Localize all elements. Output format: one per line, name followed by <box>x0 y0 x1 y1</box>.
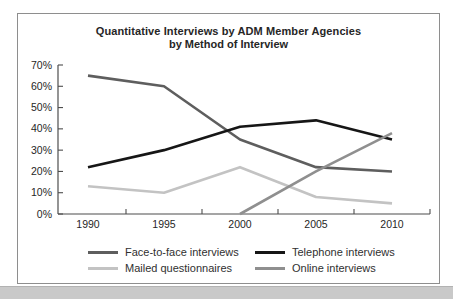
legend-label: Online interviews <box>292 262 376 274</box>
legend-item: Telephone interviews <box>255 246 395 258</box>
y-tick-label: 0% <box>37 208 52 220</box>
online-line-swatch <box>255 267 285 270</box>
chart-frame: Quantitative Interviews by ADM Member Ag… <box>17 13 440 284</box>
face-to-face-line-swatch <box>88 251 118 254</box>
legend-item: Online interviews <box>255 262 395 274</box>
y-tick-label: 70% <box>31 59 52 71</box>
legend-label: Mailed questionnaires <box>125 262 232 274</box>
series-line-mailed-questionnaires <box>88 167 392 203</box>
x-tick-label: 2005 <box>304 218 328 230</box>
series-line-telephone-interviews <box>88 120 392 167</box>
telephone-line-swatch <box>255 251 285 254</box>
legend-item: Face-to-face interviews <box>88 246 255 258</box>
y-tick-label: 60% <box>31 80 52 92</box>
y-tick-label: 10% <box>31 186 52 198</box>
y-tick-label: 50% <box>31 101 52 113</box>
plot-area: 0%10%20%30%40%50%60%70%19901995200020052… <box>18 14 439 283</box>
legend: Face-to-face interviews Telephone interv… <box>88 246 395 274</box>
x-tick-label: 1995 <box>152 218 176 230</box>
legend-label: Telephone interviews <box>292 246 395 258</box>
x-tick-label: 2000 <box>228 218 252 230</box>
legend-item: Mailed questionnaires <box>88 262 255 274</box>
y-tick-label: 30% <box>31 144 52 156</box>
x-tick-label: 2010 <box>380 218 404 230</box>
mailed-line-swatch <box>88 267 118 270</box>
y-tick-label: 20% <box>31 165 52 177</box>
y-tick-label: 40% <box>31 122 52 134</box>
legend-label: Face-to-face interviews <box>125 246 239 258</box>
x-tick-label: 1990 <box>76 218 100 230</box>
bottom-bar <box>0 286 453 299</box>
